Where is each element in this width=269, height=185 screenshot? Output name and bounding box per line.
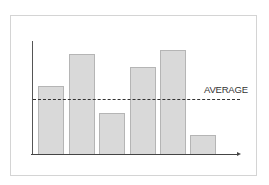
x-axis-arrow-icon	[237, 152, 241, 156]
bar-6	[190, 135, 216, 154]
bar-4	[130, 67, 156, 154]
bar-1	[38, 86, 64, 154]
x-axis	[31, 154, 239, 155]
bar-3	[99, 113, 125, 154]
average-label: AVERAGE	[204, 84, 248, 95]
y-axis	[32, 41, 33, 155]
average-line	[33, 99, 240, 100]
bar-2	[69, 54, 95, 154]
bar-5	[160, 50, 186, 154]
